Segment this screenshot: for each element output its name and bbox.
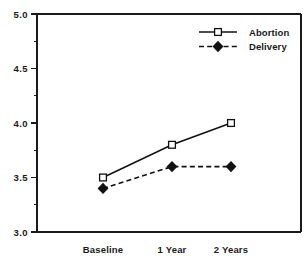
chart-legend: Abortion Delivery: [199, 27, 289, 53]
y-tick-label-3-0: 3.0: [14, 227, 28, 238]
series-abortion-point-2-years: [228, 120, 235, 127]
series-delivery-point-1-year: [167, 162, 176, 172]
y-axis-tick-labels: 5.0 4.5 4.0 3.5 3.0: [14, 9, 29, 238]
x-label-1-year: 1 Year: [157, 244, 186, 255]
x-label-baseline: Baseline: [83, 244, 124, 255]
x-axis-category-labels: Baseline 1 Year 2 Years: [83, 244, 249, 255]
legend-marker-open-square-icon: [215, 29, 222, 36]
y-tick-label-3-5: 3.5: [14, 172, 29, 183]
legend-label-delivery: Delivery: [249, 41, 287, 52]
legend-entry-delivery[interactable]: Delivery: [199, 41, 287, 52]
chart-canvas: 5.0 4.5 4.0 3.5 3.0 Abortion: [0, 0, 307, 269]
x-label-2-years: 2 Years: [214, 244, 249, 255]
series-delivery: [98, 162, 235, 193]
series-abortion-point-1-year: [169, 141, 176, 148]
series-abortion-point-baseline: [100, 174, 107, 181]
y-tick-label-5-0: 5.0: [14, 9, 28, 20]
line-chart: 5.0 4.5 4.0 3.5 3.0 Abortion: [0, 0, 307, 269]
series-delivery-line: [103, 167, 231, 189]
y-axis-major-ticks: [31, 14, 37, 232]
series-delivery-point-2-years: [226, 162, 235, 172]
y-tick-label-4-0: 4.0: [14, 118, 28, 129]
legend-label-abortion: Abortion: [249, 27, 289, 38]
legend-entry-abortion[interactable]: Abortion: [199, 27, 289, 38]
y-tick-label-4-5: 4.5: [14, 63, 29, 74]
series-abortion: [100, 120, 235, 181]
legend-marker-filled-diamond-icon: [213, 42, 222, 52]
series-delivery-point-baseline: [98, 184, 107, 194]
series-abortion-line: [103, 123, 231, 178]
